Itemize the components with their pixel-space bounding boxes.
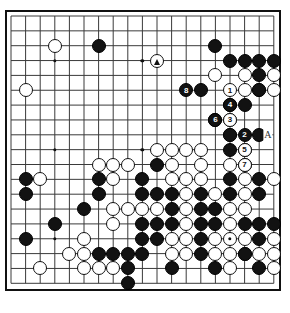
go-diagram-root: 12345678A (0, 0, 290, 313)
go-board-frame (5, 10, 281, 291)
